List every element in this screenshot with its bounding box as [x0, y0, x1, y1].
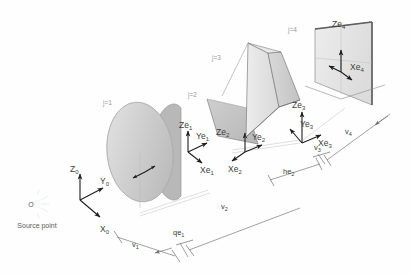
element-tag-j2: j=2 [187, 91, 197, 99]
axis-label-ye3: Ye3 [300, 119, 314, 130]
dimension-label-qe1: qe1 [173, 228, 184, 238]
source-point-label: Source point [17, 222, 56, 230]
element-tag-j3: j=3 [211, 54, 221, 62]
dimension-label-v2: v2 [221, 202, 228, 212]
axis-label-xe2: Xe2 [228, 164, 242, 175]
axis-label-ye1: Ye1 [196, 131, 210, 142]
axis-label-ze4: Ze4 [332, 19, 346, 30]
source-point-group: O Source point [17, 190, 56, 230]
element-tag-j4: j=4 [287, 26, 297, 34]
dimension-label-v4: v4 [345, 127, 352, 137]
axis-label-x0: X0 [100, 224, 110, 235]
axis-label-ze1: Ze1 [179, 120, 193, 131]
optical-system-diagram: O Source point Z0 Y0 X0 j=1 Ze1 Ye1 Xe1 [0, 0, 413, 274]
axis-label-y0: Y0 [100, 176, 110, 187]
element-j1-lens: j=1 [102, 99, 181, 208]
triad-j1: Ze1 Ye1 Xe1 [179, 120, 214, 176]
figure-canvas: O Source point Z0 Y0 X0 j=1 Ze1 Ye1 Xe1 [0, 0, 413, 274]
axis-label-xe1: Xe1 [200, 165, 214, 176]
axis-label-z0: Z0 [70, 164, 79, 175]
source-rays-icon [37, 190, 49, 218]
prism-leader [222, 43, 248, 96]
element-tag-j1: j=1 [102, 99, 112, 107]
triad-j3: Ze3 Ye3 Xe3 [290, 100, 332, 149]
axis-label-ze3: Ze3 [292, 100, 306, 111]
axis-label-ye2: Ye2 [252, 132, 266, 143]
element-j4-screen: j=4 [287, 22, 385, 105]
dimension-label-v1: v1 [132, 240, 139, 250]
global-coordinate-triad: Z0 Y0 X0 [70, 164, 110, 235]
dimension-label-he2: he2 [283, 167, 294, 177]
source-point-marker: O [28, 201, 34, 208]
